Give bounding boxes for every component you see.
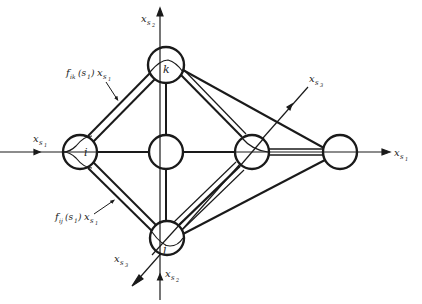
axis-label-x-s2-top: x s 2: [141, 13, 155, 28]
svg-text:s: s: [90, 217, 94, 225]
svg-text:s: s: [315, 79, 319, 87]
svg-text:(s: (s: [78, 68, 87, 78]
svg-text:1: 1: [405, 156, 408, 162]
axis-label-x-s3-top: x s 3: [309, 73, 323, 88]
svg-text:(s: (s: [65, 212, 74, 222]
arrowhead-icon: [158, 274, 163, 280]
svg-text:s: s: [400, 153, 404, 161]
svg-text:s: s: [39, 139, 43, 147]
svg-text:ij: ij: [59, 217, 63, 225]
svg-text:ik: ik: [70, 73, 76, 80]
node-center: [149, 135, 183, 169]
svg-text:s: s: [147, 19, 151, 27]
axis-label-x-s2-bottom: x s 2: [165, 268, 179, 283]
axis-label-x-s1-left: x s 1: [33, 133, 47, 148]
svg-text:s: s: [103, 73, 107, 81]
arrowhead-icon: [382, 149, 390, 155]
svg-text:2: 2: [175, 277, 179, 283]
svg-text:): ): [77, 212, 82, 222]
node-label-k: k: [163, 63, 170, 76]
arrowhead-icon: [34, 150, 40, 155]
arrowhead-icon: [132, 275, 143, 286]
svg-text:s: s: [171, 274, 175, 282]
leader-arrow-icon: [106, 82, 117, 99]
leader-arrow-icon: [94, 201, 113, 214]
arrowhead-icon: [157, 8, 163, 16]
network-flow-diagram: i k j x s 1 x s 1 x s 2 x s 2 x s 3 x s …: [0, 0, 422, 304]
svg-text:2: 2: [151, 22, 155, 28]
svg-text:1: 1: [108, 76, 111, 82]
svg-text:3: 3: [125, 262, 128, 268]
axis-label-x-s1-right: x s 1: [394, 147, 408, 162]
annotation-fij: f ij (s 1 ) x s 1: [54, 201, 113, 226]
svg-text:3: 3: [320, 82, 323, 88]
svg-text:1: 1: [44, 142, 47, 148]
annotation-fik: f ik (s 1 ) x s 1: [65, 67, 117, 99]
svg-text:): ): [90, 68, 95, 78]
node-label-i: i: [84, 146, 88, 159]
svg-text:s: s: [120, 259, 124, 267]
svg-text:1: 1: [95, 220, 98, 226]
axis-label-x-s3-bottom: x s 3: [114, 253, 128, 268]
